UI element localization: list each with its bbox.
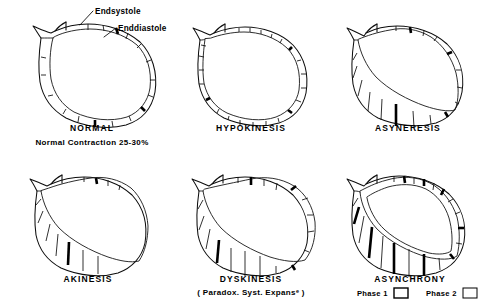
ventricular-wall-motion-figure: NORMAL Normal Contraction 25-30% Endsyst… bbox=[0, 0, 501, 303]
legend-swatch-phase-2 bbox=[463, 288, 477, 298]
legend-item-phase-2: Phase 2 bbox=[426, 288, 477, 298]
figure-background bbox=[0, 0, 501, 303]
panel-title-akinesis: AKINESIS bbox=[64, 274, 113, 284]
legend-label-phase-2: Phase 2 bbox=[426, 289, 457, 298]
panel-title-normal: NORMAL bbox=[70, 123, 114, 133]
legend-label-phase-1: Phase 1 bbox=[357, 289, 388, 298]
legend-swatch-phase-1 bbox=[394, 288, 408, 298]
panel-title-dyskinesis: DYSKINESIS bbox=[220, 274, 283, 284]
callout-endsystole-label: Endsystole bbox=[95, 7, 141, 16]
panel-title-hypokinesis: HYPOKINESIS bbox=[216, 123, 286, 133]
panel-title-asynchrony: ASYNCHRONY bbox=[374, 274, 445, 284]
legend-item-phase-1: Phase 1 bbox=[357, 288, 408, 298]
panel-subtitle-normal: Normal Contraction 25-30% bbox=[35, 138, 148, 147]
panel-title-asyneresis: ASYNERESIS bbox=[375, 123, 441, 133]
panel-subtitle-dyskinesis: ( Paradox. Syst. Expansᵉ ) bbox=[197, 288, 305, 297]
callout-enddiastole-label: Enddiastole bbox=[118, 24, 167, 33]
